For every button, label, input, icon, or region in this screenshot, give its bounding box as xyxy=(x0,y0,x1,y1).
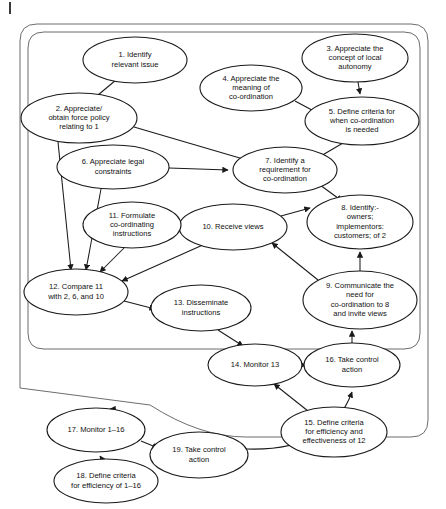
node-n5[interactable]: 5. Define criteria forwhen co-ordination… xyxy=(305,97,419,145)
node-n19[interactable]: 19. Take controlaction xyxy=(150,432,248,478)
node-n9[interactable]: 9. Communicate theneed forco-ordination … xyxy=(303,271,417,329)
flow-diagram: 1. Identifyrelevant issue2. Appreciate/o… xyxy=(0,0,446,509)
nodes-layer: 1. Identifyrelevant issue2. Appreciate/o… xyxy=(21,34,419,503)
node-n11[interactable]: 11. Formulateco-ordinatinginstructions xyxy=(83,202,181,248)
node-label-n15: 15. Define criteriafor efficiency andeff… xyxy=(302,418,365,446)
node-n8[interactable]: 8. Identify:-owners;implementors:custome… xyxy=(307,195,413,249)
node-label-n9: 9. Communicate theneed forco-ordination … xyxy=(326,281,394,318)
node-label-n14: 14. Monitor 13 xyxy=(231,360,280,369)
node-label-n1: 1. Identifyrelevant issue xyxy=(112,50,159,68)
edge-10-to-8 xyxy=(281,208,310,216)
node-n17[interactable]: 17. Monitor 1–16 xyxy=(47,408,145,452)
node-n4[interactable]: 4. Appreciate themeaning ofco-ordination xyxy=(200,65,302,111)
node-n6[interactable]: 6. Appreciate legalconstraints xyxy=(57,145,169,189)
node-label-n13: 13. Disseminateinstructions xyxy=(174,298,228,316)
edge-10-to-12 xyxy=(122,244,205,281)
node-n2[interactable]: 2. Appreciate/obtain force policyrelatin… xyxy=(21,93,137,143)
node-n12[interactable]: 12. Compare 11with 2, 6, and 10 xyxy=(24,269,128,315)
node-label-n11: 11. Formulateco-ordinatinginstructions xyxy=(109,211,155,239)
node-n15[interactable]: 15. Define criteriafor efficiency andeff… xyxy=(281,407,387,457)
node-n7[interactable]: 7. Identify arequirement forco-ordinatio… xyxy=(233,147,337,193)
node-n13[interactable]: 13. Disseminateinstructions xyxy=(151,285,251,331)
edge-3-to-5 xyxy=(358,82,360,94)
node-n18[interactable]: 18. Define criteriafor efficiency of 1–1… xyxy=(54,459,158,503)
node-label-n8: 8. Identify:-owners;implementors:custome… xyxy=(334,203,386,240)
edge-12-to-13 xyxy=(124,301,155,309)
node-label-n18: 18. Define criteriafor efficiency of 1–1… xyxy=(71,471,141,489)
diagram-page: 1. Identifyrelevant issue2. Appreciate/o… xyxy=(0,0,446,509)
node-label-n12: 12. Compare 11with 2, 6, and 10 xyxy=(47,282,104,300)
node-n16[interactable]: 16. Take controlaction xyxy=(304,343,400,387)
node-n10[interactable]: 10. Receive views xyxy=(179,204,287,250)
node-label-n7: 7. Identify arequirement forco-ordinatio… xyxy=(259,156,311,184)
edge-11-to-12 xyxy=(100,248,124,272)
edge-15-to-14 xyxy=(274,384,308,411)
edge-13-to-14 xyxy=(218,330,243,346)
node-n3[interactable]: 3. Appreciate theconcept of localautonom… xyxy=(302,34,408,82)
node-label-n17: 17. Monitor 1–16 xyxy=(68,425,125,434)
node-n14[interactable]: 14. Monitor 13 xyxy=(208,344,302,386)
edge-9-to-10 xyxy=(272,243,318,280)
edge-6-to-7 xyxy=(169,168,228,170)
node-n1[interactable]: 1. Identifyrelevant issue xyxy=(83,37,187,83)
node-label-n10: 10. Receive views xyxy=(202,222,263,231)
